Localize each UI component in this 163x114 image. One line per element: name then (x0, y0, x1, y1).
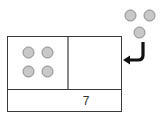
counter-icon (134, 27, 145, 38)
arrow-icon (123, 42, 143, 65)
counter-icon (125, 10, 136, 21)
incoming-counters (125, 10, 155, 38)
total-label: 7 (78, 94, 94, 108)
counter-icon (23, 47, 34, 58)
counter-icon (42, 47, 53, 58)
counter-icon (23, 66, 34, 77)
counter-icon (144, 10, 155, 21)
counter-icon (42, 66, 53, 77)
